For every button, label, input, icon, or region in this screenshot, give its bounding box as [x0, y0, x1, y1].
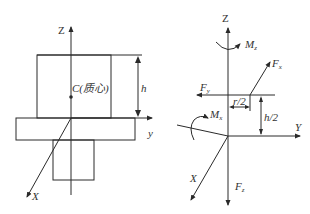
- right-x-label: X: [189, 172, 198, 184]
- height-label: h: [141, 82, 147, 94]
- force-diagonal-label: Fx: [271, 57, 283, 71]
- diagram-canvas: Z y X C(质心) h Z Y X Mz Mx Fx Fy Fz r/2 h…: [0, 0, 310, 214]
- left-z-label: Z: [58, 24, 65, 36]
- flange-rect: [16, 118, 135, 140]
- center-of-mass-dot: [69, 95, 73, 99]
- center-of-mass-label: C(质心): [72, 82, 109, 95]
- force-y-label: Fy: [199, 81, 211, 95]
- force-diagonal-arrow: [250, 62, 270, 95]
- left-y-label: y: [147, 127, 153, 139]
- moment-x-label: Mx: [209, 108, 223, 122]
- left-x-label: X: [31, 190, 40, 202]
- x-axis-line: [27, 118, 71, 197]
- right-y-label: Y: [295, 121, 303, 133]
- h-arrow-down: [259, 129, 263, 135]
- right-x-axis-line: [191, 136, 228, 200]
- height-arrow-up: [135, 56, 141, 63]
- moment-z-label: Mz: [244, 38, 257, 52]
- height-arrow-down: [135, 110, 141, 117]
- force-z-label: Fz: [234, 180, 245, 194]
- left-figure: Z y X C(质心) h: [16, 24, 153, 202]
- r-half-label: r/2: [233, 95, 246, 107]
- h-arrow-up: [259, 96, 263, 102]
- x-axis-back-extension: [177, 125, 228, 136]
- right-z-label: Z: [222, 12, 229, 24]
- h-half-label: h/2: [264, 111, 279, 123]
- lower-body-rect: [53, 140, 94, 180]
- right-figure: Z Y X Mz Mx Fx Fy Fz r/2 h/2: [177, 12, 303, 205]
